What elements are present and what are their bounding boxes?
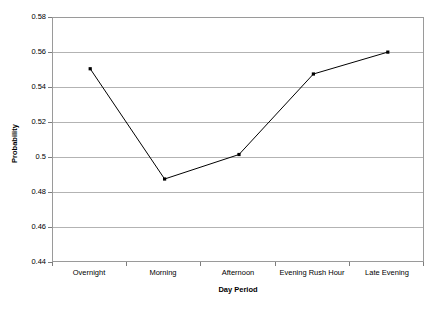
x-tick-mark [126, 262, 127, 266]
y-tick-label: 0.44 [0, 258, 46, 266]
x-tick-mark [200, 262, 201, 266]
x-tick-label-evening-rush-hour: Evening Rush Hour [279, 269, 344, 277]
x-tick-mark [423, 262, 424, 266]
y-tick-label: 0.52 [0, 118, 46, 126]
y-axis-title: Probability [10, 109, 19, 179]
x-tick-mark [275, 262, 276, 266]
series-layer [53, 18, 425, 263]
data-point-marker [237, 153, 240, 156]
y-tick-label: 0.48 [0, 188, 46, 196]
x-tick-label-late-evening: Late Evening [365, 269, 409, 277]
series-markers [89, 51, 390, 181]
plot-area [52, 17, 424, 262]
y-tick-label: 0.56 [0, 48, 46, 56]
y-tick-label: 0.58 [0, 13, 46, 21]
series-line-probability [90, 52, 388, 179]
x-tick-label-overnight: Overnight [73, 269, 106, 277]
data-point-marker [312, 72, 315, 75]
y-tick-label: 0.46 [0, 223, 46, 231]
x-tick-mark [52, 262, 53, 266]
x-tick-mark [349, 262, 350, 266]
x-axis-labels: Overnight Morning Afternoon Evening Rush… [52, 269, 424, 283]
y-axis-labels: 0.58 0.56 0.54 0.52 0.5 0.48 0.46 0.44 [0, 0, 52, 309]
y-tick-label: 0.5 [0, 153, 46, 161]
line-chart: 0.58 0.56 0.54 0.52 0.5 0.48 0.46 0.44 P… [0, 0, 446, 309]
x-axis-title: Day Period [52, 285, 424, 294]
data-point-marker [386, 51, 389, 54]
data-point-marker [89, 67, 92, 70]
x-tick-label-afternoon: Afternoon [222, 269, 255, 277]
data-point-marker [163, 177, 166, 180]
x-tick-label-morning: Morning [149, 269, 176, 277]
y-tick-label: 0.54 [0, 83, 46, 91]
